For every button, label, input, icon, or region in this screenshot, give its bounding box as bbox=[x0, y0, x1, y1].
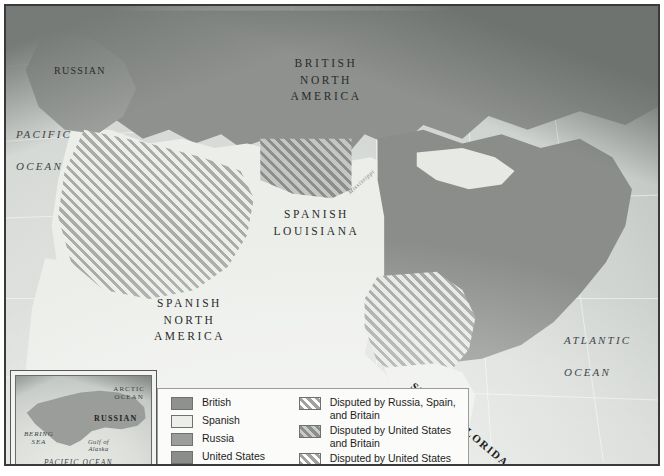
inset-label-russian: RUSSIAN bbox=[94, 414, 138, 423]
legend-column-hatched: Disputed by Russia, Spain, and Britain D… bbox=[295, 396, 468, 466]
legend-item-russia: Russia bbox=[171, 432, 295, 446]
legend-swatch-spanish bbox=[171, 415, 193, 428]
legend-item-disputed-us-britain: Disputed by United States and Britain bbox=[299, 424, 468, 449]
legend-swatch-british bbox=[171, 397, 193, 410]
legend-item-british: British bbox=[171, 396, 295, 410]
inset-label-bering-sea: BERING SEA bbox=[24, 430, 54, 446]
inset-map-canvas: ARCTIC OCEAN RUSSIAN BERING SEA Gulf of … bbox=[15, 375, 152, 466]
inset-label-pacific-ocean: PACIFIC OCEAN bbox=[44, 458, 113, 466]
legend-label-spanish: Spanish bbox=[202, 414, 240, 427]
legend-item-spanish: Spanish bbox=[171, 414, 295, 428]
legend-item-united-states: United States bbox=[171, 450, 295, 464]
legend-column-solid: British Spanish Russia United States bbox=[158, 396, 295, 466]
legend-swatch-russia bbox=[171, 433, 193, 446]
map-frame: RUSSIAN BRITISH NORTH AMERICA SPANISH LO… bbox=[4, 4, 660, 466]
legend-label-united-states: United States bbox=[202, 450, 265, 463]
map-screenshot: RUSSIAN BRITISH NORTH AMERICA SPANISH LO… bbox=[0, 0, 664, 476]
inset-label-arctic-ocean: ARCTIC OCEAN bbox=[113, 385, 145, 401]
label-russian: RUSSIAN bbox=[54, 64, 106, 79]
label-british-north-america: BRITISH NORTH AMERICA bbox=[261, 55, 391, 105]
label-atlantic-ocean: ATLANTIC OCEAN bbox=[564, 333, 654, 381]
legend-label-disputed-russia-spain-britain: Disputed by Russia, Spain, and Britain bbox=[330, 396, 456, 421]
legend-label-disputed-us-britain: Disputed by United States and Britain bbox=[330, 424, 451, 449]
legend-swatch-disputed-us-britain bbox=[299, 425, 321, 438]
label-pacific-ocean: PACIFIC OCEAN bbox=[16, 127, 100, 175]
label-spanish-louisiana: SPANISH LOUISIANA bbox=[249, 206, 384, 239]
legend-swatch-united-states bbox=[171, 451, 193, 464]
legend-swatch-disputed-us-spain bbox=[299, 453, 321, 466]
label-spanish-north-america: SPANISH NORTH AMERICA bbox=[122, 295, 257, 345]
legend-swatch-disputed-russia-spain-britain bbox=[299, 397, 321, 410]
legend-label-disputed-us-spain: Disputed by United States and Spain bbox=[330, 452, 451, 466]
inset-map-alaska: ARCTIC OCEAN RUSSIAN BERING SEA Gulf of … bbox=[10, 370, 157, 466]
inset-label-gulf-of-alaska: Gulf of Alaska bbox=[88, 438, 109, 452]
legend-label-british: British bbox=[202, 396, 231, 409]
legend-label-russia: Russia bbox=[202, 432, 234, 445]
map-legend: British Spanish Russia United States bbox=[157, 388, 469, 466]
legend-item-disputed-russia-spain-britain: Disputed by Russia, Spain, and Britain bbox=[299, 396, 468, 421]
legend-item-disputed-us-spain: Disputed by United States and Spain bbox=[299, 452, 468, 466]
